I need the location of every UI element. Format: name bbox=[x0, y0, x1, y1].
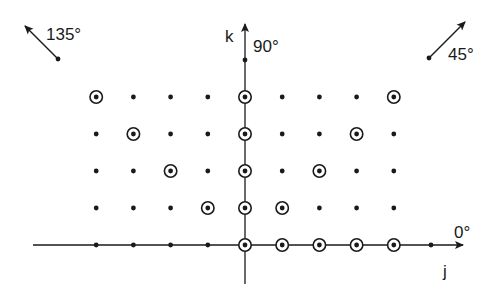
lattice-point bbox=[205, 95, 210, 100]
direction-arrow-135: 135° bbox=[25, 25, 81, 61]
lattice-point bbox=[94, 206, 99, 211]
circled-lattice-point bbox=[313, 239, 325, 251]
lattice-point bbox=[280, 132, 285, 137]
circled-lattice-point bbox=[239, 202, 251, 214]
circled-lattice-point bbox=[313, 165, 325, 177]
circled-lattice-point bbox=[239, 165, 251, 177]
lattice-point bbox=[317, 95, 322, 100]
circled-lattice-point bbox=[388, 239, 400, 251]
lattice-point bbox=[131, 169, 136, 174]
ninety-degree-label: 90° bbox=[253, 37, 279, 56]
lattice-point bbox=[354, 95, 359, 100]
lattice-point bbox=[317, 132, 322, 137]
lattice-point bbox=[205, 132, 210, 137]
arrow-135-label: 135° bbox=[46, 25, 81, 44]
circled-lattice-point bbox=[276, 202, 288, 214]
lattice-point bbox=[429, 243, 434, 248]
lattice-point bbox=[280, 95, 285, 100]
lattice-point bbox=[391, 206, 396, 211]
lattice-point bbox=[205, 169, 210, 174]
k-axis-label: k bbox=[225, 27, 234, 46]
lattice-point bbox=[94, 169, 99, 174]
zero-degree-label: 0° bbox=[454, 223, 470, 242]
lattice-point bbox=[131, 95, 136, 100]
circled-lattice-point bbox=[239, 128, 251, 140]
lattice-points bbox=[90, 58, 433, 252]
lattice-point bbox=[354, 169, 359, 174]
lattice-point bbox=[280, 169, 285, 174]
circled-lattice-point bbox=[276, 239, 288, 251]
lattice-diagram: j 0° k 90° 135° 45° bbox=[0, 0, 495, 295]
direction-arrow-45: 45° bbox=[427, 22, 474, 64]
arrow-45-label: 45° bbox=[448, 45, 474, 64]
circled-lattice-point bbox=[239, 91, 251, 103]
lattice-point bbox=[94, 243, 99, 248]
circled-lattice-point bbox=[202, 202, 214, 214]
lattice-point bbox=[168, 243, 173, 248]
lattice-point bbox=[317, 206, 322, 211]
circled-lattice-point bbox=[164, 165, 176, 177]
circled-lattice-point bbox=[350, 239, 362, 251]
circled-lattice-point bbox=[90, 91, 102, 103]
lattice-point bbox=[391, 132, 396, 137]
lattice-point bbox=[205, 243, 210, 248]
lattice-point bbox=[354, 206, 359, 211]
j-axis-label: j bbox=[442, 262, 447, 281]
lattice-point bbox=[168, 206, 173, 211]
lattice-point bbox=[168, 95, 173, 100]
circled-lattice-point bbox=[239, 239, 251, 251]
circled-lattice-point bbox=[127, 128, 139, 140]
circled-lattice-point bbox=[388, 91, 400, 103]
lattice-point bbox=[131, 243, 136, 248]
lattice-point bbox=[391, 169, 396, 174]
lattice-point bbox=[243, 58, 248, 63]
lattice-point bbox=[131, 206, 136, 211]
circled-lattice-point bbox=[350, 128, 362, 140]
lattice-point bbox=[168, 132, 173, 137]
lattice-point bbox=[94, 132, 99, 137]
